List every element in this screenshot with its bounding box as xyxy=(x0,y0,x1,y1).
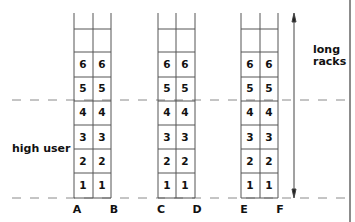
rack-a-level: 4 xyxy=(74,106,92,118)
rack-d-level: 1 xyxy=(176,179,194,191)
rack-a-level: 5 xyxy=(74,82,92,94)
rack-c-level: 5 xyxy=(158,82,176,94)
column-label-d: D xyxy=(187,203,207,216)
rack-f-level: 6 xyxy=(260,58,278,70)
rack-a-level: 1 xyxy=(74,179,92,191)
rack-f-level: 5 xyxy=(260,82,278,94)
rack-d-level: 6 xyxy=(176,58,194,70)
rack-f-level: 3 xyxy=(260,131,278,143)
rack-e-level: 1 xyxy=(241,179,259,191)
rack-b-level: 4 xyxy=(93,106,111,118)
rack-e-level: 2 xyxy=(241,155,259,167)
column-label-a: A xyxy=(67,203,87,216)
rack-f-level: 4 xyxy=(260,106,278,118)
column-label-f: F xyxy=(270,203,290,216)
rack-d-level: 2 xyxy=(176,155,194,167)
rack-f-level: 2 xyxy=(260,155,278,167)
rack-b-level: 5 xyxy=(93,82,111,94)
rack-c-level: 6 xyxy=(158,58,176,70)
rack-d-level: 5 xyxy=(176,82,194,94)
rack-b-level: 3 xyxy=(93,131,111,143)
column-label-c: C xyxy=(151,203,171,216)
rack-e-level: 6 xyxy=(241,58,259,70)
long-racks-double-arrow-icon xyxy=(292,13,296,198)
rack-c-level: 4 xyxy=(158,106,176,118)
rack-c-level: 1 xyxy=(158,179,176,191)
high-user-label: high user xyxy=(12,143,70,155)
rack-e-level: 3 xyxy=(241,131,259,143)
column-label-e: E xyxy=(234,203,254,216)
rack-d-level: 3 xyxy=(176,131,194,143)
rack-d-level: 4 xyxy=(176,106,194,118)
rack-c-level: 2 xyxy=(158,155,176,167)
rack-a-level: 6 xyxy=(74,58,92,70)
rack-c-level: 3 xyxy=(158,131,176,143)
column-label-b: B xyxy=(104,203,124,216)
long-racks-label-line2: racks xyxy=(313,56,346,68)
rack-a-level: 3 xyxy=(74,131,92,143)
rack-f-level: 1 xyxy=(260,179,278,191)
rack-e-level: 5 xyxy=(241,82,259,94)
rack-a-level: 2 xyxy=(74,155,92,167)
rack-b-level: 1 xyxy=(93,179,111,191)
rack-b-level: 6 xyxy=(93,58,111,70)
rack-b-level: 2 xyxy=(93,155,111,167)
rack-e-level: 4 xyxy=(241,106,259,118)
